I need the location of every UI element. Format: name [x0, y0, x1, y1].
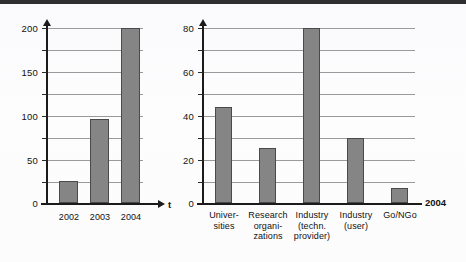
bar-universities	[215, 107, 232, 203]
bar-chart-yearly-totals: 200 150 100 50 0 t 2002 2003 2004	[0, 0, 182, 240]
x-axis-label-line-1: Univer-	[199, 210, 249, 221]
y-axis-label-60: 60	[172, 67, 194, 78]
y-axis-label-20: 20	[172, 155, 194, 166]
x-axis-line	[41, 203, 159, 205]
x-axis-label-line-1: Go/NGo	[375, 210, 425, 221]
x-axis-label-2004: 2004	[110, 212, 152, 223]
y-tick-150	[42, 72, 47, 73]
y-tick-125	[42, 94, 47, 95]
x-axis-name-t: t	[168, 199, 171, 210]
bar-2002	[59, 181, 78, 203]
y-axis-arrowhead-icon	[199, 19, 207, 26]
bar-go-ngo	[391, 188, 408, 203]
y-axis-label-200: 200	[8, 23, 38, 34]
x-axis-label-line-1: Industry	[287, 210, 337, 221]
bar-2003	[90, 119, 109, 203]
x-axis-label-line-1: Industry	[331, 210, 381, 221]
y-tick-40	[198, 116, 203, 117]
y-tick-80	[198, 28, 203, 29]
bar-chart-stakeholder-distribution: 80 60 40 20 0 2004 Univer- sities Resear…	[182, 0, 466, 240]
x-axis-line	[197, 203, 422, 205]
bar-research-organizations	[259, 148, 276, 203]
y-tick-60	[198, 72, 203, 73]
x-axis-label-line-2: (techn.	[287, 221, 337, 232]
y-axis-label-150: 150	[8, 67, 38, 78]
x-axis-label-line-2: organi-	[243, 221, 293, 232]
y-tick-20	[198, 160, 203, 161]
y-axis-label-0: 0	[172, 198, 194, 209]
y-tick-200	[42, 28, 47, 29]
bar-industry-techn-provider	[303, 28, 320, 203]
y-tick-75	[42, 138, 47, 139]
y-tick-10	[198, 182, 203, 183]
x-axis-label-universities: Univer- sities	[199, 210, 249, 231]
y-tick-25	[42, 182, 47, 183]
y-axis-label-40: 40	[172, 111, 194, 122]
x-axis-label-line-3: zations	[243, 231, 293, 242]
x-axis-label-industry-user: Industry (user)	[331, 210, 381, 231]
y-tick-50	[198, 94, 203, 95]
y-axis-label-50: 50	[8, 155, 38, 166]
y-tick-50	[42, 160, 47, 161]
y-tick-100	[42, 116, 47, 117]
x-axis-label-line-1: Research	[243, 210, 293, 221]
x-axis-arrowhead-icon	[158, 200, 165, 208]
y-axis-label-80: 80	[172, 23, 194, 34]
bar-industry-user	[347, 138, 364, 203]
x-axis-label-go-ngo: Go/NGo	[375, 210, 425, 221]
x-axis-name-2004: 2004	[425, 197, 446, 208]
x-axis-label-line-3: provider)	[287, 231, 337, 242]
y-axis-arrowhead-icon	[43, 19, 51, 26]
y-tick-30	[198, 138, 203, 139]
y-tick-175	[42, 50, 47, 51]
y-tick-70	[198, 50, 203, 51]
x-axis-label-line-2: sities	[199, 221, 249, 232]
y-axis-label-0: 0	[8, 198, 38, 209]
x-axis-label-industry-techn-provider: Industry (techn. provider)	[287, 210, 337, 242]
x-axis-label-line-2: (user)	[331, 221, 381, 232]
y-axis-label-100: 100	[8, 111, 38, 122]
bar-2004	[121, 28, 140, 203]
x-axis-label-research-organizations: Research organi- zations	[243, 210, 293, 242]
